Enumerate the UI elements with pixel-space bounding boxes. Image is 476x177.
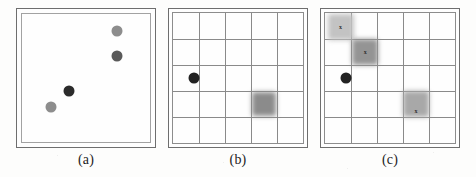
grid-line-horizontal: [325, 91, 455, 92]
panel-c-frame: xxx: [320, 8, 460, 148]
dot-black-agent: [188, 73, 199, 84]
panel-a: [16, 8, 156, 148]
blob-cell-r4c4-x-marker: x: [415, 108, 418, 114]
grid-line-vertical: [403, 13, 404, 143]
grid-line-vertical: [277, 13, 278, 143]
grid-line-horizontal: [173, 117, 303, 118]
grid-line-horizontal: [173, 39, 303, 40]
blob-cell-r2c2-x-marker: x: [364, 49, 367, 55]
panel-b-frame: [168, 8, 308, 148]
panel-b-plot-area: [172, 12, 304, 144]
dot-light-top-right: [111, 25, 122, 36]
grid-line-horizontal: [173, 91, 303, 92]
grid-line-horizontal: [173, 65, 303, 66]
panel-c: xxx: [320, 8, 460, 148]
panel-b-caption: (b): [168, 152, 308, 168]
blob-cell-r4c4: [252, 92, 276, 116]
dot-black-center: [64, 85, 75, 96]
panel-b: [168, 8, 308, 148]
panel-a-caption: (a): [16, 152, 156, 168]
grid-line-vertical: [225, 13, 226, 143]
dot-black-agent: [340, 73, 351, 84]
dot-dark-right: [111, 51, 122, 62]
figure-panels: (a) (b) xxx (c): [0, 0, 476, 177]
panel-c-plot-area: xxx: [324, 12, 456, 144]
grid-line-vertical: [377, 13, 378, 143]
grid-line-horizontal: [325, 65, 455, 66]
grid-line-vertical: [251, 13, 252, 143]
grid-line-vertical: [429, 13, 430, 143]
panel-a-plot-area: [21, 13, 151, 143]
dot-light-bottom-left: [46, 102, 57, 113]
panel-a-frame: [16, 8, 156, 148]
blob-cell-r1c1-x-marker: x: [339, 24, 342, 30]
panel-c-caption: (c): [320, 152, 460, 168]
grid-line-horizontal: [325, 117, 455, 118]
